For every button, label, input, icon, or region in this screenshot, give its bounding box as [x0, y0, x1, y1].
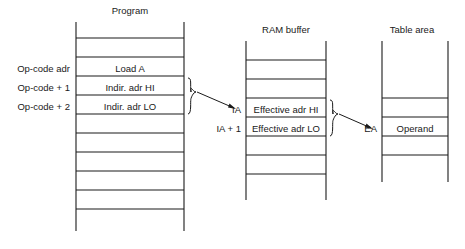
program-cell-indir-adr-hi: Indir. adr HI [105, 82, 154, 93]
block-title-table-area: Table area [390, 24, 435, 35]
brace-ram-effective-address [330, 100, 338, 136]
program-row-label-op-code-plus-1: Op-code + 1 [17, 82, 70, 93]
program-cell-indir-adr-lo: Indir. adr LO [104, 101, 156, 112]
program-row-label-op-code-plus-2: Op-code + 2 [17, 101, 70, 112]
indirect-addressing-diagram: Program Load A Indir. adr HI Indir. adr … [0, 0, 465, 249]
diagram-canvas: Program Load A Indir. adr HI Indir. adr … [0, 0, 465, 249]
block-title-program: Program [112, 5, 149, 16]
block-ram-buffer: RAM buffer Effective adr HI Effective ad… [216, 24, 326, 200]
ram-cell-effective-adr-hi: Effective adr HI [254, 104, 319, 115]
block-program: Program Load A Indir. adr HI Indir. adr … [17, 5, 184, 231]
block-title-ram-buffer: RAM buffer [262, 24, 310, 35]
program-row-label-op-code-adr: Op-code adr [17, 63, 70, 74]
ram-row-label-ia-plus-1: IA + 1 [216, 123, 241, 134]
table-row-label-ea: EA [364, 123, 377, 134]
table-cell-operand: Operand [397, 123, 434, 134]
arrow-indirect-to-ia [197, 92, 236, 109]
block-table-area: Table area Operand EA [364, 24, 448, 182]
ram-row-label-ia: IA [232, 104, 242, 115]
ram-cell-effective-adr-lo: Effective adr LO [252, 123, 320, 134]
brace-program-indirect-address [188, 78, 196, 114]
program-cell-load-a: Load A [115, 63, 145, 74]
